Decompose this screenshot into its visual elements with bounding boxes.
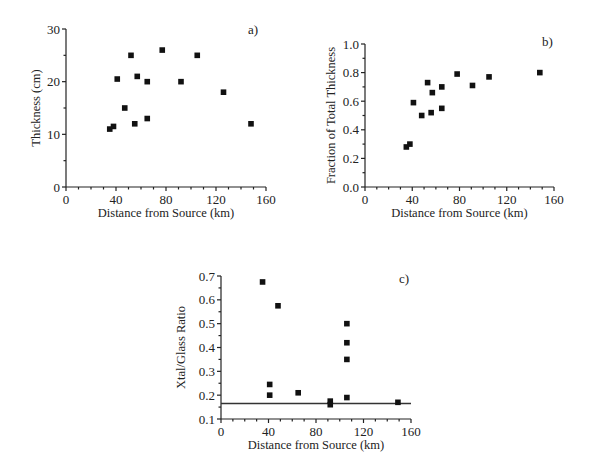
data-point <box>221 89 227 95</box>
x-tick-label: 120 <box>497 192 517 207</box>
y-tick-label: 0.4 <box>199 340 216 355</box>
panel-label: c) <box>399 271 409 286</box>
y-tick-label: 0.2 <box>199 388 215 403</box>
chart-panel-a: 040801201600102030Distance from Source (… <box>29 22 276 221</box>
y-tick-label: 0.5 <box>199 316 215 331</box>
y-axis-label: Thickness (cm) <box>29 69 43 146</box>
data-point <box>395 400 401 406</box>
x-axis-label: Distance from Source (km) <box>98 206 234 220</box>
data-point <box>430 90 436 96</box>
data-point <box>439 84 445 90</box>
y-tick-label: 0.2 <box>343 151 359 166</box>
x-tick-label: 0 <box>362 192 369 207</box>
data-point <box>275 303 281 309</box>
data-point <box>439 106 445 112</box>
y-tick-label: 0 <box>54 180 61 195</box>
y-tick-label: 0.7 <box>199 269 216 284</box>
x-tick-label: 160 <box>544 192 564 207</box>
y-tick-label: 0.8 <box>343 65 359 80</box>
x-tick-label: 40 <box>110 192 123 207</box>
x-tick-label: 0 <box>218 424 225 439</box>
x-axis-label: Distance from Source (km) <box>391 206 527 220</box>
data-point <box>470 83 476 89</box>
data-point <box>248 121 254 127</box>
data-point <box>486 74 492 80</box>
panel-label: a) <box>248 22 258 37</box>
data-point <box>425 80 431 86</box>
panel-label: b) <box>542 34 553 49</box>
data-point <box>295 390 301 396</box>
data-point <box>132 121 138 127</box>
x-tick-label: 120 <box>206 192 226 207</box>
x-tick-label: 80 <box>160 192 173 207</box>
x-tick-label: 0 <box>63 192 70 207</box>
x-tick-label: 80 <box>310 424 323 439</box>
data-point <box>407 141 413 147</box>
y-axis-label: Xtal/Glass Ratio <box>174 306 188 389</box>
x-tick-label: 40 <box>406 192 419 207</box>
data-point <box>122 105 128 111</box>
data-point <box>537 70 543 76</box>
x-tick-label: 80 <box>453 192 466 207</box>
data-point <box>344 321 350 327</box>
figure: 040801201600102030Distance from Source (… <box>0 0 591 471</box>
y-tick-label: 1.0 <box>343 37 359 52</box>
chart-panel-b: 040801201600.00.20.40.60.81.0Distance fr… <box>324 34 564 220</box>
data-point <box>454 71 460 77</box>
data-point <box>194 53 200 59</box>
data-point <box>344 357 350 363</box>
data-point <box>144 116 150 122</box>
data-point <box>114 76 120 82</box>
data-point <box>344 340 350 346</box>
data-point <box>327 402 333 408</box>
y-tick-label: 0.1 <box>199 412 215 427</box>
y-tick-label: 10 <box>47 127 60 142</box>
chart-panel-c: 040801201600.10.20.30.40.50.60.7Distance… <box>174 269 421 453</box>
y-tick-label: 0.0 <box>343 180 359 195</box>
data-point <box>344 395 350 401</box>
data-point <box>428 110 434 116</box>
data-point <box>159 47 165 53</box>
data-point <box>267 392 273 398</box>
data-point <box>267 382 273 388</box>
data-point <box>134 74 140 80</box>
x-axis-label: Distance from Source (km) <box>248 438 384 452</box>
data-point <box>178 79 184 85</box>
data-point <box>111 124 117 130</box>
x-tick-label: 160 <box>256 192 276 207</box>
y-tick-label: 20 <box>47 74 60 89</box>
y-tick-label: 0.4 <box>343 122 360 137</box>
x-tick-label: 40 <box>262 424 275 439</box>
data-point <box>419 113 425 119</box>
x-tick-label: 160 <box>401 424 421 439</box>
y-tick-label: 0.3 <box>199 364 215 379</box>
y-axis-label: Fraction of Total Thickness <box>324 47 338 184</box>
y-tick-label: 0.6 <box>343 94 360 109</box>
y-tick-label: 0.6 <box>199 292 216 307</box>
data-point <box>411 100 417 106</box>
data-point <box>260 279 266 285</box>
y-tick-label: 30 <box>47 22 60 37</box>
x-tick-label: 120 <box>354 424 374 439</box>
data-point <box>128 53 134 59</box>
data-point <box>144 79 150 85</box>
